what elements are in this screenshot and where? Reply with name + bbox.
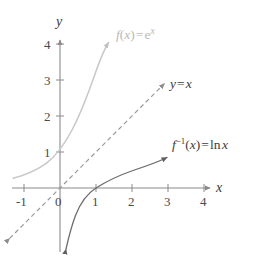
log-label-inverse-exponent: −1 bbox=[176, 136, 186, 146]
y-axis-label: y bbox=[56, 14, 62, 30]
logarithm-curve bbox=[66, 158, 167, 250]
exp-label-equals: = bbox=[135, 27, 145, 42]
x-tick-label-0: 0 bbox=[55, 194, 62, 210]
identity-label-equals: = bbox=[176, 76, 186, 91]
x-axis-label: x bbox=[216, 180, 222, 196]
y-tick-label-2: 2 bbox=[44, 109, 51, 125]
curve-label-identity: y=x bbox=[170, 76, 192, 92]
x-tick-label-3: 3 bbox=[164, 194, 171, 210]
x-tick-label-neg1: -1 bbox=[16, 194, 27, 210]
function-graph-figure: -1 0 1 2 3 4 1 2 3 4 x y f(x)=ex y=x f−1… bbox=[0, 0, 272, 258]
log-label-ln-argument: x bbox=[222, 137, 228, 152]
x-tick-label-1: 1 bbox=[92, 194, 99, 210]
y-tick-label-3: 3 bbox=[44, 73, 51, 89]
curve-label-logarithm: f−1(x)=lnx bbox=[172, 137, 228, 153]
exp-label-exponent: x bbox=[150, 26, 154, 36]
log-label-equals: = bbox=[200, 137, 210, 152]
identity-label-x: x bbox=[186, 76, 192, 91]
x-tick-label-4: 4 bbox=[200, 194, 207, 210]
y-tick-label-1: 1 bbox=[44, 145, 51, 161]
identity-line-curve bbox=[10, 84, 165, 239]
x-tick-label-2: 2 bbox=[128, 194, 135, 210]
exponential-curve bbox=[13, 43, 108, 179]
curve-label-exponential: f(x)=ex bbox=[116, 27, 155, 43]
log-label-ln: ln bbox=[210, 137, 221, 152]
y-tick-label-4: 4 bbox=[44, 37, 51, 53]
